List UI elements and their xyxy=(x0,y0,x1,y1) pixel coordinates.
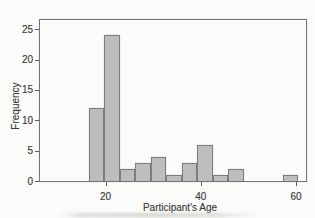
x-axis-tick-label: 60 xyxy=(281,191,311,202)
x-axis-title: Participant's Age xyxy=(0,202,315,213)
y-axis-tick-label: 15 xyxy=(11,84,33,95)
y-axis-tick xyxy=(35,60,39,61)
y-axis-tick-label: 0 xyxy=(11,176,33,187)
histogram-bar xyxy=(120,169,136,181)
y-axis-tick xyxy=(35,29,39,30)
histogram-bar xyxy=(135,163,151,181)
x-axis-tick-label: 20 xyxy=(91,191,121,202)
y-axis-tick-label: 20 xyxy=(11,54,33,65)
y-axis-tick-label: 5 xyxy=(11,145,33,156)
plot-area xyxy=(39,19,307,182)
y-axis-tick xyxy=(35,120,39,121)
histogram-bar xyxy=(166,175,182,181)
histogram-bar xyxy=(228,169,244,181)
y-axis-tick xyxy=(35,151,39,152)
histogram-bar xyxy=(213,175,229,181)
histogram-bar xyxy=(151,157,167,181)
histogram-bar xyxy=(283,175,299,181)
histogram-figure: Frequency 2040600510152025 Participant's… xyxy=(0,0,315,218)
histogram-bar xyxy=(104,35,120,181)
y-axis-tick-label: 10 xyxy=(11,115,33,126)
y-axis-tick xyxy=(35,181,39,182)
y-axis-tick xyxy=(35,90,39,91)
scan-artifact-caption-smudge xyxy=(58,213,258,217)
x-axis-tick xyxy=(201,182,202,186)
histogram-bar xyxy=(89,108,105,181)
y-axis-tick-label: 25 xyxy=(11,24,33,35)
histogram-bar xyxy=(182,163,198,181)
x-axis-tick xyxy=(296,182,297,186)
x-axis-tick xyxy=(106,182,107,186)
histogram-bar xyxy=(197,145,213,182)
x-axis-tick-label: 40 xyxy=(186,191,216,202)
